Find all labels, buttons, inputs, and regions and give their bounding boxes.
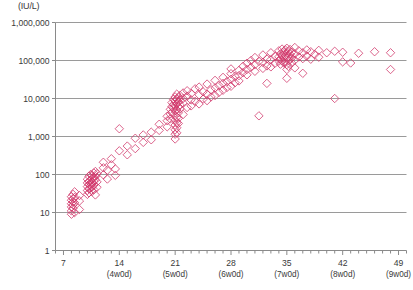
scatter-chart: (IU/L) 1101001,00010,000100,0001,000,000… — [0, 0, 413, 290]
y-tick-label: 1 — [45, 246, 50, 256]
x-tick-label: 35 — [282, 258, 292, 268]
data-point — [155, 120, 163, 128]
x-tick-sublabel: (4w0d) — [107, 270, 132, 279]
data-point — [131, 144, 139, 152]
data-point — [111, 171, 119, 179]
data-point — [386, 65, 394, 73]
data-point — [115, 125, 123, 133]
data-point — [107, 161, 115, 169]
x-tick-label: 42 — [338, 258, 348, 268]
data-point — [386, 49, 394, 57]
y-tick-label: 10 — [40, 208, 50, 218]
y-tick-label: 1,000 — [28, 132, 50, 142]
y-tick-label: 100 — [35, 170, 50, 180]
data-point — [219, 73, 227, 81]
x-tick-label: 14 — [115, 258, 125, 268]
data-point — [255, 112, 263, 120]
x-tick-label: 28 — [226, 258, 236, 268]
y-tick-label: 1,000,000 — [11, 18, 49, 28]
data-point — [331, 47, 339, 55]
data-point — [123, 142, 131, 150]
data-point — [354, 49, 362, 57]
x-tick-sublabel: (7w0d) — [274, 270, 299, 279]
x-tick-sublabel: (5w0d) — [163, 270, 188, 279]
data-points-group — [67, 43, 394, 218]
data-point — [370, 48, 378, 56]
y-tick-label: 10,000 — [23, 94, 50, 104]
x-tick-label: 49 — [394, 258, 404, 268]
data-point — [235, 77, 243, 85]
y-tick-label: 100,000 — [18, 56, 49, 66]
data-point — [283, 74, 291, 82]
data-point — [338, 58, 346, 66]
data-point — [187, 102, 195, 110]
data-point — [103, 175, 111, 183]
data-point — [115, 147, 123, 155]
data-point — [107, 155, 115, 163]
data-point — [123, 151, 131, 159]
data-point — [163, 123, 171, 131]
x-minor-ticks-group — [56, 251, 407, 256]
gridlines-group — [56, 23, 407, 213]
plot-svg: 1101001,00010,000100,0001,000,000 714(4w… — [0, 0, 413, 290]
data-point — [155, 126, 163, 134]
data-point — [323, 49, 331, 57]
x-tick-sublabel: (8w0d) — [330, 270, 355, 279]
data-point — [263, 79, 271, 87]
data-point — [111, 165, 119, 173]
data-point — [299, 69, 307, 77]
x-tick-label: 7 — [61, 258, 66, 268]
y-tick-labels-group: 1101001,00010,000100,0001,000,000 — [11, 18, 49, 256]
data-point — [99, 158, 107, 166]
x-tick-sublabel: (6w0d) — [218, 270, 243, 279]
x-tick-labels-group: 714(4w0d)21(5w0d)28(6w0d)35(7w0d)42(8w0d… — [61, 258, 411, 279]
x-tick-sublabel: (9w0d) — [386, 270, 411, 279]
data-point — [131, 134, 139, 142]
data-point — [338, 48, 346, 56]
x-tick-label: 21 — [170, 258, 180, 268]
